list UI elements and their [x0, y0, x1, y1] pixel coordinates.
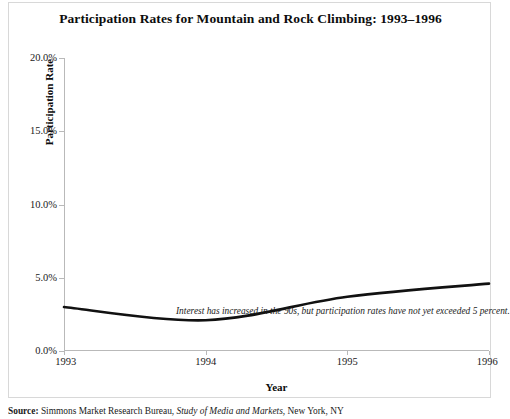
y-tick-label: 0.0%: [35, 346, 57, 357]
x-tick-label: 1995: [337, 357, 358, 368]
source-organization: Simmons Market Research Bureau,: [41, 406, 174, 416]
y-tick-label: 20.0%: [30, 53, 57, 64]
x-tick-mark: [206, 351, 207, 355]
chart-figure: Participation Rates for Mountain and Roc…: [8, 2, 491, 398]
y-tick-label: 15.0%: [30, 126, 57, 137]
x-tick-label: 1994: [195, 357, 216, 368]
source-note: Source: Simmons Market Research Bureau, …: [8, 406, 503, 416]
x-tick-label: 1993: [55, 357, 76, 368]
source-publication: Study of Media and Markets,: [177, 406, 286, 416]
source-place: New York, NY: [287, 406, 343, 416]
x-tick-mark: [347, 351, 348, 355]
plot-area: 0.0%5.0%10.0%15.0%20.0% 1993199419951996…: [64, 58, 489, 351]
x-tick-label: 1996: [477, 357, 498, 368]
x-tick-mark: [64, 351, 65, 355]
y-axis-title: Participation Rate: [43, 22, 55, 182]
chart-title: Participation Rates for Mountain and Roc…: [9, 11, 492, 27]
x-tick-mark: [489, 351, 490, 355]
y-tick-label: 5.0%: [35, 273, 57, 284]
source-label: Source:: [8, 406, 39, 416]
y-tick-label: 10.0%: [30, 199, 57, 210]
x-axis-title: Year: [64, 381, 489, 393]
chart-annotation: Interest has increased in the 90s, but p…: [176, 306, 510, 316]
